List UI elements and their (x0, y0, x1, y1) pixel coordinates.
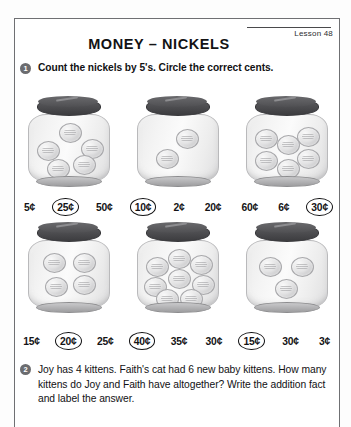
nickel-coin-1 (43, 253, 66, 273)
problem-1-number: 1 (20, 63, 31, 74)
answer-group-2: 10¢2¢20¢ (123, 198, 232, 216)
nickel-coin-2 (168, 249, 191, 269)
jar-3 (238, 94, 334, 188)
problem-1-instruction: Count the nickels by 5's. Circle the cor… (38, 62, 273, 73)
nickel-coin-1 (255, 129, 278, 149)
jar-base (145, 176, 211, 187)
problem-2-instruction: Joy has 4 kittens. Faith's cat had 6 new… (38, 363, 328, 407)
answer-group-1: 5¢25¢50¢ (14, 198, 123, 216)
jar-base (254, 302, 320, 313)
answer-option[interactable]: 2¢ (170, 200, 187, 215)
answer-option-circled[interactable]: 25¢ (52, 198, 79, 216)
nickel-coin-4 (73, 275, 96, 295)
jar-4 (20, 220, 116, 314)
nickel-coin-5 (73, 155, 96, 175)
answer-group-2: 40¢35¢30¢ (123, 332, 232, 350)
jar-body (137, 114, 219, 182)
answer-option[interactable]: 60¢ (238, 200, 261, 215)
answer-option[interactable]: 30¢ (203, 334, 226, 349)
answer-option[interactable]: 6¢ (275, 200, 292, 215)
nickel-coin-3 (275, 279, 298, 299)
jar-base (36, 176, 102, 187)
jar-6 (238, 220, 334, 314)
nickel-coin-1 (176, 129, 199, 149)
answer-row-2: 15¢20¢25¢40¢35¢30¢15¢30¢3¢ (14, 330, 340, 352)
jar-base (254, 176, 320, 187)
jar-row-2 (14, 218, 340, 314)
jar-5 (129, 220, 225, 314)
jar-base (145, 302, 211, 313)
nickel-coin-6 (297, 149, 320, 169)
answer-option[interactable]: 5¢ (21, 200, 38, 215)
answer-option[interactable]: 25¢ (94, 334, 117, 349)
answer-group-3: 15¢30¢3¢ (231, 332, 340, 350)
jar-row-1 (14, 92, 340, 188)
nickel-coin-1 (259, 257, 282, 277)
jar-body (246, 240, 328, 308)
answer-option-circled[interactable]: 10¢ (130, 198, 157, 216)
nickel-coin-1 (146, 257, 169, 277)
nickel-coin-2 (73, 253, 96, 273)
nickel-coin-2 (291, 257, 314, 277)
nickel-coin-4 (255, 151, 278, 171)
jar-body (28, 114, 110, 182)
lesson-divider-rule (247, 27, 331, 28)
nickel-coin-1 (59, 123, 82, 143)
nickel-coin-3 (190, 255, 213, 275)
problem-1: 1 Count the nickels by 5's. Circle the c… (20, 62, 273, 74)
answer-group-3: 60¢6¢30¢ (231, 198, 340, 216)
answer-option[interactable]: 3¢ (316, 334, 333, 349)
answer-option[interactable]: 30¢ (279, 334, 302, 349)
jar-body (137, 240, 219, 308)
problem-2-number: 2 (20, 364, 31, 375)
page-title: MONEY – NICKELS (14, 36, 304, 52)
jar-1 (20, 94, 116, 188)
answer-option[interactable]: 35¢ (168, 334, 191, 349)
worksheet-page: Lesson 48 MONEY – NICKELS 1 Count the ni… (0, 0, 351, 427)
answer-option-circled[interactable]: 30¢ (306, 198, 333, 216)
answer-option-circled[interactable]: 40¢ (129, 332, 156, 350)
answer-option-circled[interactable]: 15¢ (238, 332, 265, 350)
nickel-coin-2 (156, 149, 179, 169)
answer-option[interactable]: 20¢ (202, 200, 225, 215)
jar-2 (129, 94, 225, 188)
nickel-coin-3 (45, 277, 68, 297)
answer-option[interactable]: 50¢ (93, 200, 116, 215)
jar-body (28, 240, 110, 308)
answer-option-circled[interactable]: 20¢ (55, 332, 82, 350)
nickel-coin-2 (37, 141, 60, 161)
answer-group-1: 15¢20¢25¢ (14, 332, 123, 350)
nickel-coin-3 (297, 127, 320, 147)
jar-base (36, 302, 102, 313)
nickel-coin-5 (168, 269, 191, 289)
answer-row-1: 5¢25¢50¢10¢2¢20¢60¢6¢30¢ (14, 196, 340, 218)
jar-body (246, 114, 328, 182)
problem-2: 2 Joy has 4 kittens. Faith's cat had 6 n… (20, 363, 328, 407)
answer-option[interactable]: 15¢ (20, 334, 43, 349)
